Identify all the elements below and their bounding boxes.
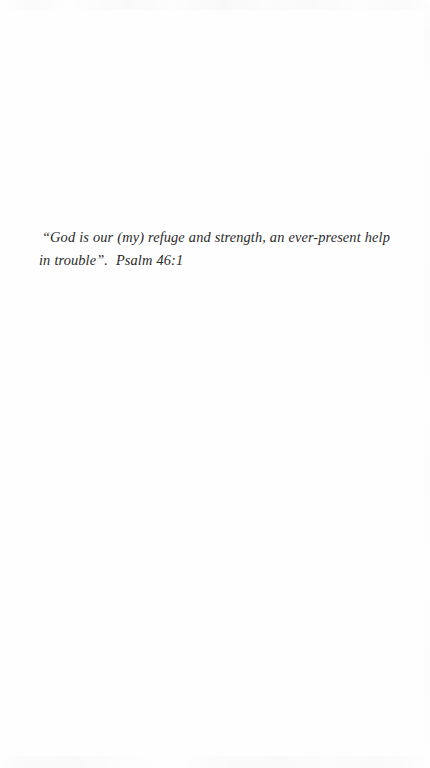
scan-artifact-right-edge <box>424 0 430 768</box>
scanned-page: “God is our (my) refuge and strength, an… <box>0 0 430 768</box>
scripture-quote-text: “God is our (my) refuge and strength, an… <box>39 226 397 272</box>
scan-artifact-top-edge <box>0 0 430 10</box>
scan-artifact-bottom-edge <box>0 756 430 768</box>
